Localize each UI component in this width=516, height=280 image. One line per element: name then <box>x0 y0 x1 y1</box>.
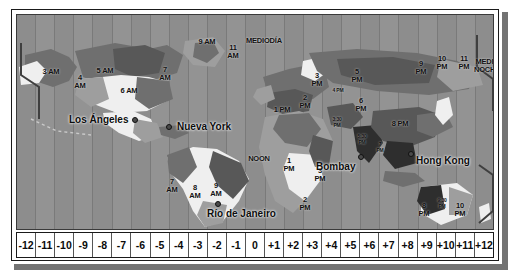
timezone-map-screenshot: 3 AM4 AM5 AM6 AM7 AM9 AM11 AMMEDIODÍA7 A… <box>0 0 516 280</box>
time-zone-label: 7 PM <box>366 142 394 153</box>
time-zone-label: 2 PM <box>291 196 319 212</box>
utc-offset-cell[interactable]: +4 <box>322 233 341 257</box>
city-marker-dot[interactable] <box>166 124 172 130</box>
city-marker-dot[interactable] <box>408 151 414 157</box>
utc-offset-cell[interactable]: -11 <box>36 233 55 257</box>
utc-offset-cell[interactable]: -2 <box>208 233 227 257</box>
time-zone-label: 8 PM <box>386 120 414 128</box>
utc-offset-axis: -12-11-10-9-8-7-6-5-4-3-2-10+1+2+3+4+5+6… <box>16 232 494 258</box>
utc-offset-cell[interactable]: +10 <box>437 233 456 257</box>
utc-offset-cell[interactable]: +8 <box>399 233 418 257</box>
time-zone-label: 3:30 PM <box>323 117 351 128</box>
time-zone-label: 9 AM <box>193 38 221 46</box>
map-card: 3 AM4 AM5 AM6 AM7 AM9 AM11 AMMEDIODÍA7 A… <box>8 6 502 264</box>
utc-offset-cell[interactable]: -4 <box>170 233 189 257</box>
time-zone-label: NOON <box>245 155 273 163</box>
utc-offset-cell[interactable]: -8 <box>93 233 112 257</box>
utc-offset-cell[interactable]: 0 <box>246 233 265 257</box>
utc-offset-cell[interactable]: +11 <box>456 233 475 257</box>
utc-offset-cell[interactable]: +1 <box>265 233 284 257</box>
time-zone-label: 6 AM <box>115 87 143 95</box>
utc-offset-cell[interactable]: +7 <box>379 233 398 257</box>
time-zone-label: 9 AM <box>202 182 230 198</box>
map-card-inner: 3 AM4 AM5 AM6 AM7 AM9 AM11 AMMEDIODÍA7 A… <box>11 9 499 261</box>
utc-offset-cell[interactable]: -5 <box>151 233 170 257</box>
utc-offset-cell[interactable]: +2 <box>284 233 303 257</box>
time-zone-label: MEDIODÍA <box>246 37 274 45</box>
time-zone-label: 5 PM <box>343 68 371 84</box>
time-zone-label: 3 PM <box>303 72 331 88</box>
time-zone-label: 4 AM <box>66 74 94 90</box>
time-zone-label: 7 AM <box>151 66 179 82</box>
city-label: Nueva York <box>177 121 231 132</box>
time-zone-label: 11 AM <box>219 44 247 60</box>
city-marker-dot[interactable] <box>358 154 364 160</box>
time-zone-label: 10 PM <box>446 202 474 218</box>
city-label: Los Ángeles <box>69 114 128 125</box>
time-zone-label: 4 PM <box>324 88 352 94</box>
utc-offset-cell[interactable]: -3 <box>189 233 208 257</box>
time-zone-label: MEDIA NOCHE <box>473 58 494 74</box>
city-marker-dot[interactable] <box>132 117 138 123</box>
utc-offset-cell[interactable]: +3 <box>303 233 322 257</box>
utc-offset-cell[interactable]: -7 <box>112 233 131 257</box>
time-zone-label: 3 AM <box>37 68 65 76</box>
utc-offset-cell[interactable]: -12 <box>17 233 36 257</box>
utc-offset-cell[interactable]: -6 <box>131 233 150 257</box>
time-zone-label: 5 AM <box>91 67 119 75</box>
time-zone-label: 1 PM <box>275 157 303 173</box>
utc-offset-cell[interactable]: +5 <box>341 233 360 257</box>
utc-offset-cell[interactable]: +6 <box>360 233 379 257</box>
utc-offset-cell[interactable]: +12 <box>475 233 493 257</box>
utc-offset-cell[interactable]: +9 <box>418 233 437 257</box>
city-label: Río de Janeiro <box>207 208 276 219</box>
city-label: Bombay <box>316 161 355 172</box>
city-label: Hong Kong <box>416 155 470 166</box>
time-zone-label: 6 PM <box>347 97 375 113</box>
time-zone-label: 2 PM <box>291 94 319 110</box>
city-marker-dot[interactable] <box>215 201 221 207</box>
utc-offset-cell[interactable]: -1 <box>227 233 246 257</box>
utc-offset-cell[interactable]: -10 <box>55 233 74 257</box>
utc-offset-cell[interactable]: -9 <box>74 233 93 257</box>
world-timezone-map: 3 AM4 AM5 AM6 AM7 AM9 AM11 AMMEDIODÍA7 A… <box>16 14 494 230</box>
